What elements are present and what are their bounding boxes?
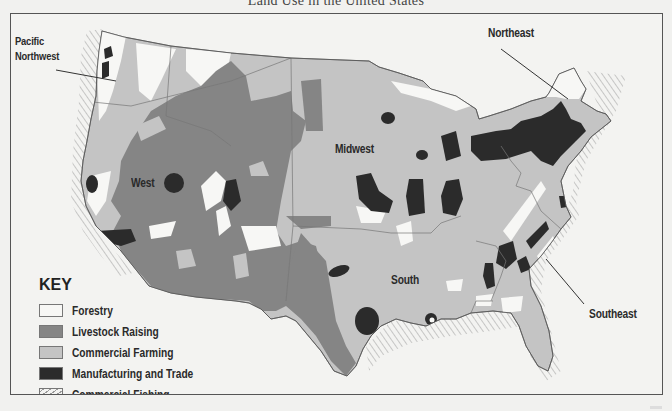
manufacturing-swatch — [39, 367, 63, 380]
livestock-swatch — [39, 325, 63, 338]
map-frame: Pacific Northwest West Midwest Northeast… — [10, 13, 663, 395]
label-west: West — [131, 176, 155, 191]
label-midwest: Midwest — [335, 142, 374, 157]
key-item-fishing: Commercial Fishing — [39, 384, 215, 395]
farming-swatch — [39, 346, 63, 359]
map-key: KEY Forestry Livestock Raising Commercia… — [39, 276, 215, 395]
label-southeast: Southeast — [589, 307, 637, 322]
key-title: KEY — [39, 276, 215, 294]
fishing-swatch — [39, 388, 63, 395]
corner-mark — [650, 406, 662, 409]
forestry-swatch — [39, 304, 63, 317]
key-item-forestry: Forestry — [39, 300, 215, 321]
label-northeast: Northeast — [488, 26, 534, 41]
map-title: Land Use in the United States — [0, 0, 672, 9]
label-south: South — [391, 273, 419, 288]
key-item-farming: Commercial Farming — [39, 342, 215, 363]
key-item-livestock: Livestock Raising — [39, 321, 215, 342]
key-item-manufacturing: Manufacturing and Trade — [39, 363, 215, 384]
label-pacific-northwest: Pacific Northwest — [15, 34, 59, 64]
